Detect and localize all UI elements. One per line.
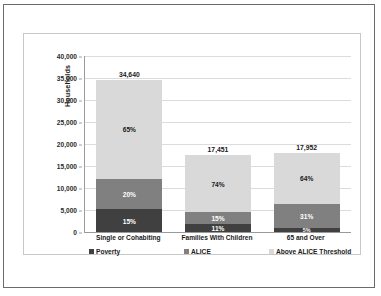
- bar-segment[interactable]: 15%: [96, 209, 162, 232]
- bar-segment[interactable]: 20%: [96, 179, 162, 209]
- y-axis-tick-label: 35,000: [38, 75, 82, 82]
- document-page: Households 05,00010,00015,00020,00025,00…: [3, 4, 375, 288]
- bar-group[interactable]: 64%31%5%17,952: [274, 153, 340, 232]
- x-axis-category-labels: Single or CohabitingFamilies With Childr…: [84, 234, 350, 248]
- y-axis-tick-label: 5,000: [38, 207, 82, 214]
- bar-segment[interactable]: 74%: [185, 155, 251, 212]
- bar-segment[interactable]: 64%: [274, 153, 340, 204]
- gridline: [85, 56, 351, 57]
- plot-area: 65%20%15%34,64074%15%11%17,45164%31%5%17…: [84, 56, 351, 233]
- chart-container: Households 05,00010,00015,00020,00025,00…: [23, 33, 361, 255]
- bar-segment-percent-label: 20%: [96, 190, 162, 197]
- y-axis-tick-labels: 05,00010,00015,00020,00025,00030,00035,0…: [38, 56, 82, 232]
- y-axis-tick-mark: [79, 166, 82, 167]
- x-axis-category-label: 65 and Over: [261, 234, 350, 241]
- bar-total-label: 17,451: [185, 146, 251, 153]
- legend-square-marker-icon: [184, 249, 189, 254]
- legend-item-label: Above ALICE Threshold: [276, 248, 351, 255]
- bar-stack: 74%15%11%: [185, 155, 251, 232]
- y-axis-tick-mark: [79, 210, 82, 211]
- legend-item[interactable]: ALICE: [184, 248, 211, 255]
- bar-segment[interactable]: 65%: [96, 80, 162, 179]
- bar-segment[interactable]: 11%: [185, 224, 251, 232]
- y-axis-tick-label: 15,000: [38, 163, 82, 170]
- y-axis-tick-label: 40,000: [38, 53, 82, 60]
- legend-item-label: ALICE: [191, 248, 211, 255]
- x-axis-category-label: Single or Cohabiting: [84, 234, 173, 241]
- y-axis-tick-label: 10,000: [38, 185, 82, 192]
- bar-segment-percent-label: 15%: [96, 217, 162, 224]
- bar-segment-percent-label: 74%: [185, 180, 251, 187]
- legend-item[interactable]: Poverty: [89, 248, 120, 255]
- bar-total-label: 34,640: [96, 71, 162, 78]
- chart-plot-wrapper: Households 05,00010,00015,00020,00025,00…: [24, 34, 360, 254]
- legend-item-label: Poverty: [96, 248, 120, 255]
- bar-segment[interactable]: 5%: [274, 228, 340, 232]
- y-axis-tick-mark: [79, 188, 82, 189]
- y-axis-tick-mark: [79, 122, 82, 123]
- bar-segment-percent-label: 64%: [274, 175, 340, 182]
- bar-stack: 65%20%15%: [96, 80, 162, 232]
- y-axis-tick-label: 25,000: [38, 119, 82, 126]
- y-axis-tick-mark: [79, 144, 82, 145]
- legend-square-marker-icon: [269, 249, 274, 254]
- y-axis-tick-label: 0: [38, 229, 82, 236]
- bar-total-label: 17,952: [274, 144, 340, 151]
- y-axis-tick-mark: [79, 78, 82, 79]
- y-axis-tick-label: 30,000: [38, 97, 82, 104]
- bar-group[interactable]: 65%20%15%34,640: [96, 80, 162, 232]
- legend-item[interactable]: Above ALICE Threshold: [269, 248, 351, 255]
- bar-segment[interactable]: 31%: [274, 204, 340, 228]
- x-axis-category-label: Families With Children: [173, 234, 262, 241]
- bar-stack: 64%31%5%: [274, 153, 340, 232]
- bar-segment-percent-label: 11%: [185, 224, 251, 231]
- bar-segment-percent-label: 15%: [185, 214, 251, 221]
- y-axis-tick-label: 20,000: [38, 141, 82, 148]
- y-axis-tick-mark: [79, 56, 82, 57]
- bar-segment-percent-label: 31%: [274, 212, 340, 219]
- chart-legend: PovertyALICEAbove ALICE Threshold: [64, 248, 354, 262]
- legend-square-marker-icon: [89, 249, 94, 254]
- bar-group[interactable]: 74%15%11%17,451: [185, 155, 251, 232]
- y-axis-tick-mark: [79, 100, 82, 101]
- y-axis-tick-mark: [79, 232, 82, 233]
- bar-segment-percent-label: 5%: [274, 227, 340, 233]
- bar-segment[interactable]: 15%: [185, 212, 251, 224]
- bar-segment-percent-label: 65%: [96, 126, 162, 133]
